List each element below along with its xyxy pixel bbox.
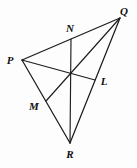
vertex-label-R: R: [66, 149, 73, 160]
geometry-figure: P Q R N L M: [0, 0, 137, 168]
midpoint-label-L: L: [101, 76, 108, 87]
median-QM: [46, 18, 120, 101]
vertex-label-Q: Q: [120, 6, 128, 17]
midpoint-label-M: M: [29, 101, 39, 112]
midpoint-label-N: N: [66, 23, 74, 34]
vertex-label-P: P: [7, 55, 14, 66]
median-PL: [22, 60, 95, 80]
median-NR: [70, 39, 71, 143]
